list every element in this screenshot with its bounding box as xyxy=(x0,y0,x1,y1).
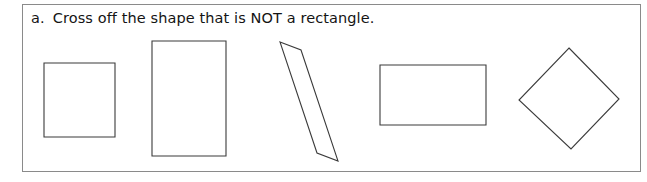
worksheet-page: a. Cross off the shape that is NOT a rec… xyxy=(0,0,647,182)
shape-wide-rectangle[interactable] xyxy=(380,65,486,125)
instruction-line: a. Cross off the shape that is NOT a rec… xyxy=(31,10,631,34)
shape-square[interactable] xyxy=(44,63,115,137)
shape-diamond[interactable] xyxy=(519,48,619,149)
problem-letter: a. xyxy=(31,10,45,26)
problem-box: a. Cross off the shape that is NOT a rec… xyxy=(22,4,641,172)
shape-tall-rectangle[interactable] xyxy=(152,41,226,156)
instruction-text: Cross off the shape that is NOT a rectan… xyxy=(53,10,375,26)
shape-tilted-rectangle[interactable] xyxy=(280,42,338,161)
